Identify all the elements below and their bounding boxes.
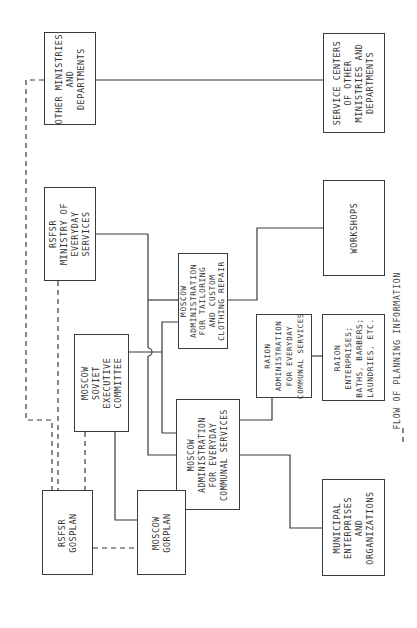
box-label: RSFSR MINISTRY OF EVERYDAY SERVICES	[48, 203, 92, 265]
box-raion-admin: RAION ADMINISTRATION FOR EVERYDAY COMMUN…	[256, 314, 312, 398]
legend: FLOW OF PLANNING INFORMATION	[382, 272, 412, 452]
box-label: RSFSR GOSPLAN	[57, 513, 79, 553]
box-service-centers: SERVICE CENTERS OF OTHER MINISTRIES AND …	[323, 33, 385, 133]
box-rsfsr-ministry-everyday-services: RSFSR MINISTRY OF EVERYDAY SERVICES	[44, 187, 96, 281]
box-label: MOSCOW SOVIET EXECUTIVE COMMITTEE	[80, 358, 124, 409]
box-moscow-soviet-executive-committee: MOSCOW SOVIET EXECUTIVE COMMITTEE	[74, 334, 129, 432]
box-moscow-admin-tailoring: MOSCOW ADMINISTRATION FOR TAILORING AND …	[178, 253, 228, 349]
box-workshops: WORKSHOPS	[323, 180, 385, 276]
box-moscow-gorplan: MOSCOW GORPLAN	[137, 490, 186, 575]
box-label: RAION ENTERPRISES; BATHS, BARBERS; LAUND…	[332, 318, 376, 397]
box-municipal-enterprises: MUNICIPAL ENTERPRISES AND ORGANIZATIONS	[322, 479, 385, 576]
org-chart: OTHER MINISTRIES AND DEPARTMENTS SERVICE…	[0, 0, 417, 628]
box-rsfsr-gosplan: RSFSR GOSPLAN	[42, 490, 93, 575]
box-label: OTHER MINISTRIES AND DEPARTMENTS	[54, 33, 87, 123]
box-label: WORKSHOPS	[349, 203, 360, 254]
legend-text: FLOW OF PLANNING INFORMATION	[392, 272, 402, 430]
box-label: RAION ADMINISTRATION FOR EVERYDAY COMMUN…	[262, 313, 306, 399]
box-other-ministries: OTHER MINISTRIES AND DEPARTMENTS	[44, 32, 96, 125]
box-label: MOSCOW ADMINISTRATION FOR EVERYDAY COMMU…	[186, 408, 230, 500]
box-label: SERVICE CENTERS OF OTHER MINISTRIES AND …	[332, 41, 376, 126]
box-label: MOSCOW GORPLAN	[151, 513, 173, 553]
box-label: MUNICIPAL ENTERPRISES AND ORGANIZATIONS	[332, 491, 376, 564]
box-raion-enterprises: RAION ENTERPRISES; BATHS, BARBERS; LAUND…	[322, 314, 385, 401]
box-label: MOSCOW ADMINISTRATION FOR TAILORING AND …	[179, 261, 227, 340]
